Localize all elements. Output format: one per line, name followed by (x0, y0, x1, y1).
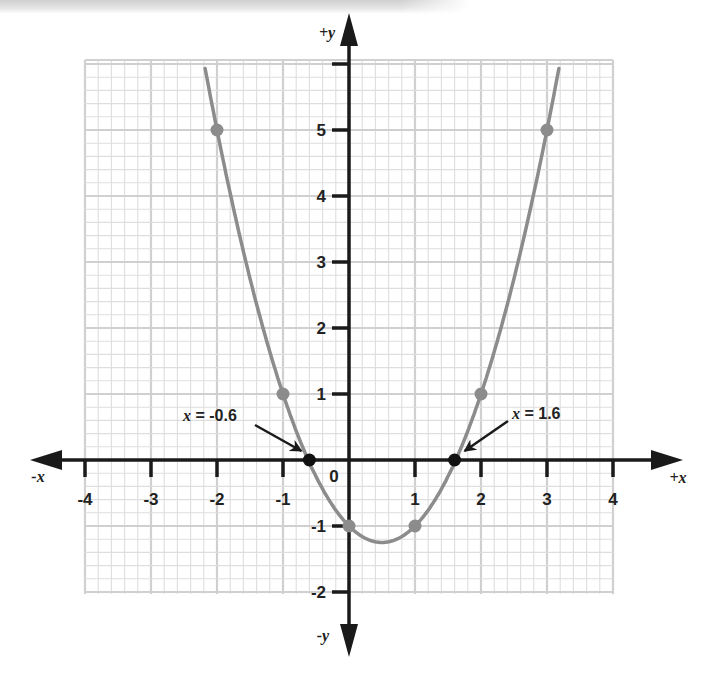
parabola-curve (205, 69, 559, 543)
x-positive-label: +x (669, 469, 686, 486)
axes (30, 13, 683, 657)
x-negative-label: -x (31, 468, 44, 485)
y-axis-negative-arrow-icon (340, 624, 358, 657)
x-tick-label: -2 (209, 490, 224, 509)
table-point (211, 124, 224, 137)
origin-label: 0 (329, 467, 338, 486)
y-tick-label: 2 (317, 319, 326, 338)
x-tick-label: 3 (542, 490, 551, 509)
y-tick-label: 5 (317, 121, 326, 140)
x-tick-label: -4 (77, 490, 93, 509)
x-intercept-point (448, 454, 461, 467)
table-point (409, 520, 422, 533)
x-tick-label: -1 (275, 490, 290, 509)
x-tick-label: 2 (476, 490, 485, 509)
table-point (541, 124, 554, 137)
table-point (343, 520, 356, 533)
x-intercept-point (303, 454, 316, 467)
annotation-root-positive: x = 1.6 (511, 405, 561, 422)
x-axis-negative-arrow-icon (30, 450, 62, 470)
y-tick-label: -1 (311, 517, 326, 536)
x-tick-label: 1 (410, 490, 419, 509)
x-axis-positive-arrow-icon (651, 450, 683, 470)
y-tick-label: 1 (317, 385, 326, 404)
x-tick-label: 4 (608, 490, 618, 509)
x-tick-label: -3 (143, 490, 158, 509)
y-tick-label: 3 (317, 253, 326, 272)
annotations: x = -0.6x = 1.6 (182, 405, 561, 451)
table-point (475, 388, 488, 401)
y-tick-label: -2 (311, 583, 326, 602)
table-point (277, 388, 290, 401)
annotation-root-negative: x = -0.6 (182, 407, 237, 424)
y-negative-label: -y (317, 627, 330, 645)
y-tick-label: 4 (317, 187, 327, 206)
y-positive-label: +y (319, 24, 336, 42)
parabola-chart: -4-3-2-11234-2-1123450 x = -0.6x = 1.6 +… (0, 0, 711, 685)
y-axis-positive-arrow-icon (340, 13, 358, 46)
